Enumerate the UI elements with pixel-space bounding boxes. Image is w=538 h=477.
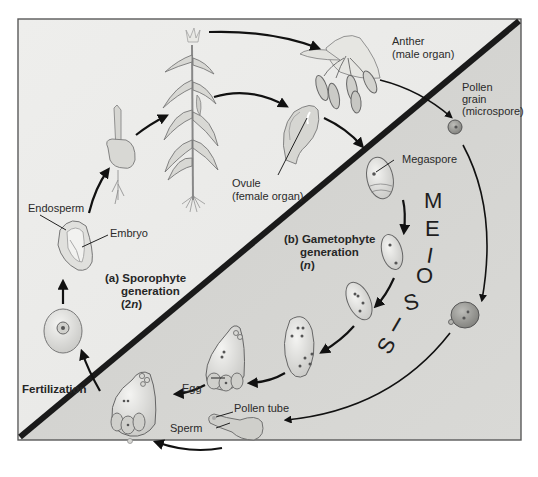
meiosis-letter-o: O xyxy=(416,263,433,288)
gametophyte-title: (b) Gametophyte xyxy=(284,233,375,245)
arrow-pollen-tube-to-fertilization xyxy=(156,442,222,450)
meiosis-letter-e: E xyxy=(425,216,440,241)
gametophyte-ploidy: (n) xyxy=(300,259,315,271)
pollen-grain-label-2: grain xyxy=(462,93,486,105)
pollen-grain-label-3: (microspore) xyxy=(462,105,524,117)
megaspore-label: Megaspore xyxy=(402,153,457,165)
pollen-tube-label: Pollen tube xyxy=(234,402,289,414)
embryo-label: Embryo xyxy=(110,227,148,239)
ovule-label: Ovule xyxy=(232,177,261,189)
egg-label: Egg xyxy=(182,382,202,394)
ovule-sublabel: (female organ) xyxy=(232,190,304,202)
pollen-grain xyxy=(448,120,462,134)
sperm-label: Sperm xyxy=(170,422,202,434)
sporophyte-ploidy: (2n) xyxy=(121,298,142,310)
endosperm-label: Endosperm xyxy=(28,202,84,214)
zygote-cell xyxy=(44,309,82,353)
meiosis-letter-m: M xyxy=(424,188,442,213)
anther-label: Anther xyxy=(392,35,425,47)
pollen-grain-label: Pollen xyxy=(462,81,493,93)
gametophyte-title-2: generation xyxy=(300,246,359,258)
embryo-sac-8-nuclei xyxy=(284,317,314,377)
sporophyte-title-2: generation xyxy=(121,285,180,297)
sporophyte-title: (a) Sporophyte xyxy=(105,272,186,284)
anther-sublabel: (male organ) xyxy=(392,48,454,60)
life-cycle-diagram: Endosperm Embryo Anther (male organ) Pol… xyxy=(0,0,538,477)
fertilization-label: Fertilization xyxy=(22,383,87,395)
